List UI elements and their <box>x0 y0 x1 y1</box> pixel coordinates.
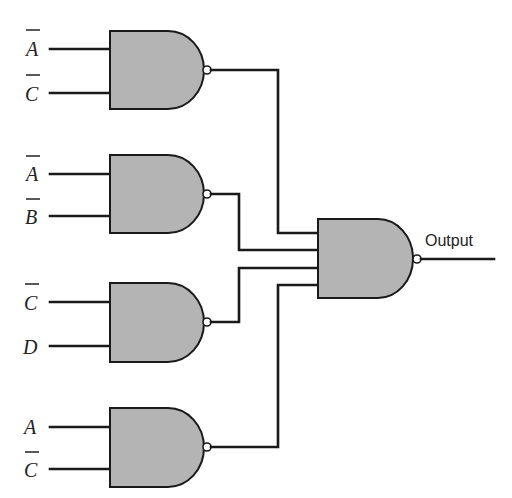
output-label: Output <box>425 232 474 249</box>
nand-gate-3: C D <box>22 283 211 362</box>
nand-gate-4-body <box>110 408 204 487</box>
gate3-label-c: C <box>24 292 38 314</box>
nand-gate-4: A C <box>22 408 211 487</box>
interconnect-wires <box>211 70 318 447</box>
gate3-label-d: D <box>22 336 38 358</box>
nand-nand-circuit: A C A B C D A C <box>0 0 512 498</box>
gate3-to-output-wire <box>211 268 318 322</box>
gate4-label-a: A <box>22 416 37 438</box>
gate4-label-c: C <box>24 459 38 481</box>
gate2-label-b: B <box>25 206 37 228</box>
gate1-label-c: C <box>25 83 39 105</box>
nand-gate-2: A B <box>24 155 211 233</box>
gate4-to-output-wire <box>211 285 318 447</box>
nand-gate-1-body <box>110 31 204 109</box>
gate2-to-output-wire <box>211 194 318 250</box>
nand-gate-output-body <box>318 219 413 298</box>
gate1-to-output-wire <box>211 70 318 233</box>
gate1-label-a: A <box>24 38 39 60</box>
nand-gate-2-body <box>110 155 204 233</box>
nand-gate-output: Output <box>318 219 494 298</box>
nand-gate-3-body <box>110 283 204 362</box>
nand-gate-1: A C <box>24 30 211 109</box>
gate2-label-a: A <box>24 163 39 185</box>
